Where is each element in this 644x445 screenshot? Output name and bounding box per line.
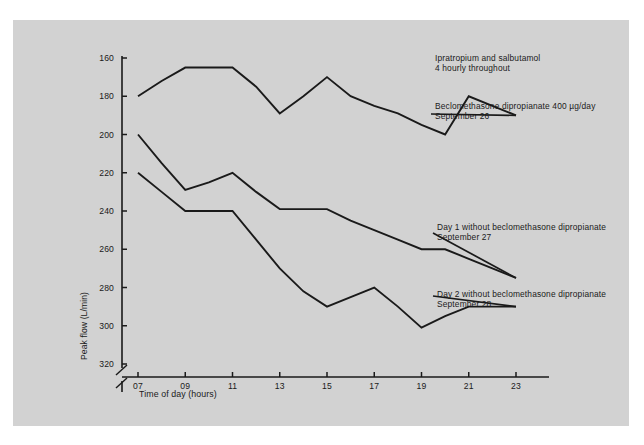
y-axis-tick-label: 320 (88, 359, 114, 369)
annotation-day1: Day 1 without beclomethasone dipropianat… (437, 222, 606, 243)
y-axis-label-wrapper: Peak flow (L/min) (78, 240, 92, 360)
y-axis-tick-label: 260 (88, 244, 114, 254)
annotation-beclomethasone-line2: September 26 (435, 111, 595, 121)
x-axis-tick-label: 23 (505, 381, 527, 391)
series-line-september-27 (138, 135, 516, 278)
annotation-day2-line2: September 28 (437, 299, 606, 309)
annotation-beclomethasone: Beclomethasone dipropianate 400 µg/day S… (435, 101, 595, 122)
x-axis-tick-label: 07 (127, 381, 149, 391)
y-axis-tick-label: 240 (88, 206, 114, 216)
y-axis-tick-label: 300 (88, 321, 114, 331)
x-axis-tick-label: 15 (316, 381, 338, 391)
y-axis-tick-label: 180 (88, 91, 114, 101)
y-axis-tick-label: 220 (88, 168, 114, 178)
annotation-ipratropium: Ipratropium and salbutamol 4 hourly thro… (435, 53, 540, 74)
figure-canvas: Peak flow (L/min) Time of day (hours) Ip… (0, 0, 644, 445)
y-axis-tick-label: 280 (88, 283, 114, 293)
annotation-day2-line1: Day 2 without beclomethasone dipropianat… (437, 289, 606, 299)
x-axis-tick-label: 13 (269, 381, 291, 391)
annotation-day1-line1: Day 1 without beclomethasone dipropianat… (437, 222, 606, 232)
annotation-beclomethasone-unit: µg/day (569, 101, 595, 111)
annotation-ipratropium-line1: Ipratropium and salbutamol (435, 53, 540, 63)
y-axis-tick-label: 160 (88, 53, 114, 63)
annotation-ipratropium-line2: 4 hourly throughout (435, 63, 540, 73)
x-axis-tick-label: 09 (174, 381, 196, 391)
annotation-day2: Day 2 without beclomethasone dipropianat… (437, 289, 606, 310)
annotation-day1-line2: September 27 (437, 232, 606, 242)
y-axis-tick-label: 200 (88, 130, 114, 140)
annotation-beclomethasone-line1: Beclomethasone dipropianate 400 µg/day (435, 101, 595, 111)
x-axis-tick-label: 21 (458, 381, 480, 391)
x-axis-tick-label: 19 (411, 381, 433, 391)
x-axis-tick-label: 17 (363, 381, 385, 391)
x-axis-tick-label: 11 (222, 381, 244, 391)
annotation-beclomethasone-line1-text: Beclomethasone dipropianate 400 (435, 101, 569, 111)
annotation-leader-lines (431, 114, 516, 307)
